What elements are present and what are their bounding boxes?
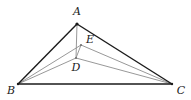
point-B-dot <box>17 83 19 85</box>
label-A: A <box>72 5 81 18</box>
label-D: D <box>71 61 81 74</box>
point-D-dot <box>75 57 77 59</box>
point-C-dot <box>171 83 173 85</box>
geometry-figure: A B C D E <box>0 0 191 100</box>
figure-background <box>0 0 191 100</box>
label-C: C <box>177 84 186 97</box>
point-E-dot <box>80 44 82 46</box>
figure-canvas: A B C D E <box>0 0 191 100</box>
label-E: E <box>85 33 94 46</box>
label-B: B <box>6 84 15 97</box>
point-A-dot <box>75 22 78 25</box>
